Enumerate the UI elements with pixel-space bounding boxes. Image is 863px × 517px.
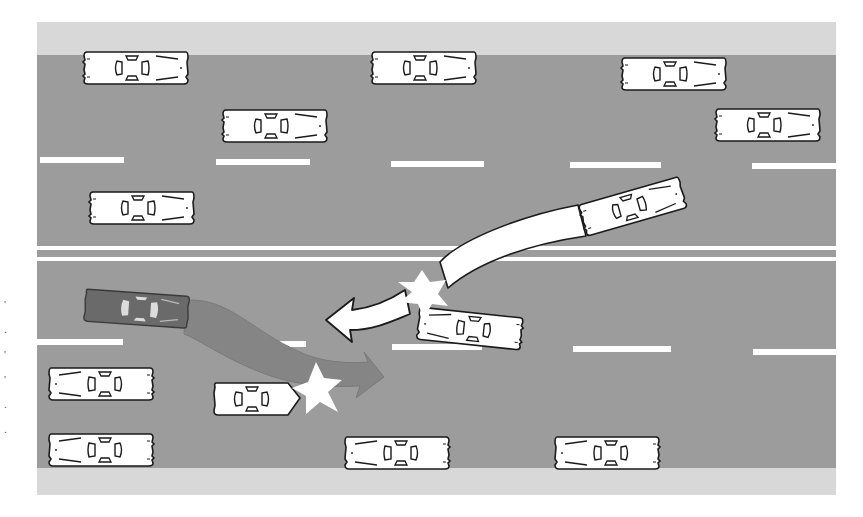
- car-3: [621, 58, 726, 90]
- road: [37, 22, 836, 495]
- car-2: [371, 52, 476, 84]
- car-4: [222, 110, 327, 142]
- car-11: [555, 437, 660, 469]
- car-5: [715, 109, 820, 141]
- car-10: [345, 437, 450, 469]
- bottom-shoulder: [37, 468, 836, 495]
- car-7: [49, 368, 154, 400]
- margin-text-fragment: ' . ' ' . .: [4, 292, 14, 442]
- crash-diagram: [0, 0, 863, 517]
- car-1: [83, 52, 188, 84]
- car-8: [214, 383, 300, 415]
- car-9: [49, 434, 154, 466]
- car-dark: [84, 289, 190, 328]
- car-6: [89, 192, 194, 224]
- top-shoulder: [37, 22, 836, 56]
